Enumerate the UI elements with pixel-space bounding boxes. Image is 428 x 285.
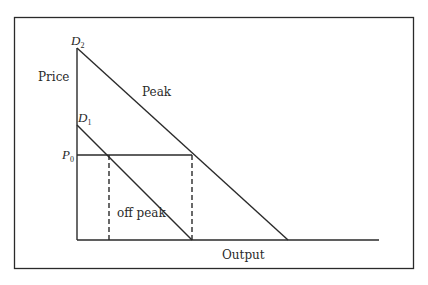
- figure-frame: [15, 18, 414, 269]
- peak-load-pricing-diagram: Price Output Peak off peak D2 D1 P0: [0, 0, 428, 285]
- off-peak-demand-curve: [77, 125, 192, 240]
- peak-curve-subscript: 2: [80, 41, 84, 50]
- price-level-letter: P: [61, 147, 70, 162]
- price-level-subscript: 0: [70, 155, 74, 164]
- off-peak-curve-name: off peak: [117, 206, 167, 220]
- price-level-label: P0: [61, 147, 74, 164]
- peak-curve-letter: D: [70, 33, 81, 48]
- off-peak-curve-letter: D: [77, 110, 88, 125]
- off-peak-curve-label: D1: [77, 110, 91, 127]
- peak-curve-label: D2: [70, 33, 84, 50]
- y-axis-label: Price: [38, 70, 69, 84]
- peak-curve-name: Peak: [142, 85, 172, 99]
- off-peak-curve-subscript: 1: [87, 118, 91, 127]
- x-axis-label: Output: [222, 248, 265, 262]
